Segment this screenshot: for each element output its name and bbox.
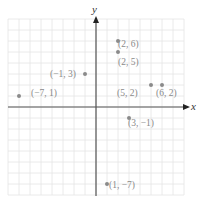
data-point <box>116 50 120 54</box>
point-label: (6, 2) <box>156 89 177 99</box>
point-label: (−1, 3) <box>50 70 76 80</box>
point-label: (1, −7) <box>109 181 135 191</box>
data-point <box>17 94 21 98</box>
data-point <box>83 72 87 76</box>
coordinate-plane <box>0 0 198 206</box>
y-axis-label: y <box>92 4 97 15</box>
point-label: (2, 5) <box>118 58 139 68</box>
point-label: (3, −1) <box>128 119 154 129</box>
x-axis-arrow-icon <box>183 104 190 110</box>
axes <box>8 16 190 196</box>
point-label: (−7, 1) <box>31 89 57 99</box>
point-label: (2, 6) <box>118 40 139 50</box>
point-label: (5, 2) <box>117 89 138 99</box>
data-points <box>17 39 164 186</box>
data-point <box>160 83 164 87</box>
y-axis-arrow-icon <box>93 16 99 23</box>
data-point <box>149 83 153 87</box>
x-axis-label: x <box>191 101 196 112</box>
